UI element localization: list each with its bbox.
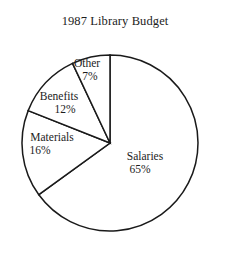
pie-chart-svg bbox=[0, 0, 230, 261]
pie-slice-group bbox=[22, 55, 198, 231]
pie-chart-figure: 1987 Library Budget Other 7% Benefits 12… bbox=[0, 0, 230, 261]
